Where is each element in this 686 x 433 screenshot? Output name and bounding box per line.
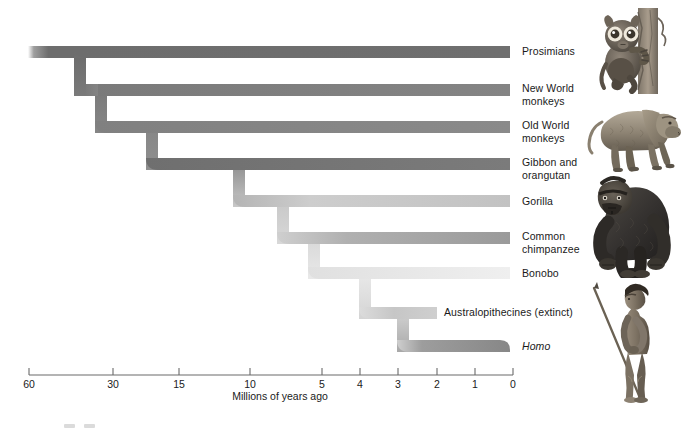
tick-label-2: 2 (434, 378, 440, 390)
tick-label-30: 30 (107, 378, 119, 390)
tick-label-5: 5 (319, 378, 325, 390)
tick-label-0: 0 (510, 378, 516, 390)
tick-label-4: 4 (357, 378, 363, 390)
gorilla-illustration (586, 170, 680, 278)
tick-label-3: 3 (395, 378, 401, 390)
early-human-illustration (592, 278, 678, 404)
time-axis (0, 0, 686, 433)
tick-label-15: 15 (173, 378, 185, 390)
prosimian-tarsier-illustration (592, 8, 670, 94)
tick-label-60: 60 (23, 378, 35, 390)
tick-label-10: 10 (244, 378, 256, 390)
scan-artifact (64, 424, 110, 429)
primate-evolutionary-tree-figure: Prosimians New World monkeys Old World m… (0, 0, 686, 433)
axis-title: Millions of years ago (200, 390, 360, 402)
old-world-monkey-baboon-illustration (586, 88, 682, 172)
tick-label-1: 1 (472, 378, 478, 390)
